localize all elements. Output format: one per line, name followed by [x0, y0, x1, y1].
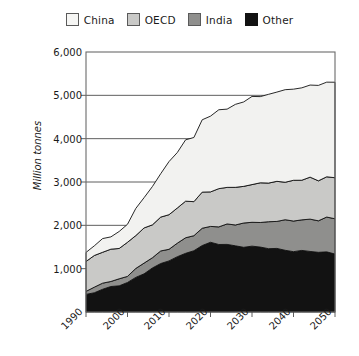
x-tick-label: 2010 [142, 306, 168, 332]
x-tick-label: 1990 [59, 306, 85, 332]
x-tick-label: 2050 [308, 306, 334, 332]
x-tick-label: 2030 [225, 306, 251, 332]
x-tick-label: 2020 [184, 306, 210, 332]
x-axis-tick-labels: 1990200020102020203020402050 [0, 0, 359, 356]
x-tick-label: 2000 [101, 306, 127, 332]
x-tick-label: 2040 [267, 306, 293, 332]
stacked-area-chart: China OECD India Other Million tonnes 1,… [0, 0, 359, 356]
